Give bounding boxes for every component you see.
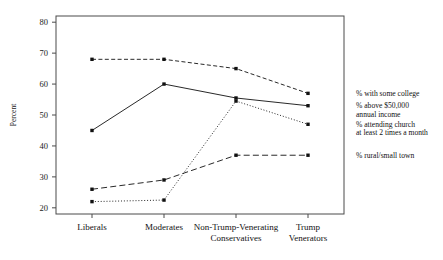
series-line-1 <box>92 84 308 130</box>
data-point-marker[interactable] <box>90 200 93 203</box>
x-axis-category-label: Non-Trump-Venerating <box>194 222 279 232</box>
legend-label-3: % rural/small town <box>356 151 414 160</box>
data-point-marker[interactable] <box>162 58 165 61</box>
x-axis-category-label: Liberals <box>77 222 107 232</box>
data-point-marker[interactable] <box>306 104 309 107</box>
y-axis-tick-label: 80 <box>40 17 49 27</box>
legend-label-1: annual income <box>356 110 401 119</box>
line-chart: 20304050607080PercentLiberalsModeratesNo… <box>0 0 443 260</box>
legend-label-2: at least 2 times a month <box>356 128 428 137</box>
y-axis-tick-label: 60 <box>40 79 49 89</box>
series-line-2 <box>92 101 308 202</box>
series-line-0 <box>92 59 308 93</box>
x-axis-category-label: Conservatives <box>211 233 262 243</box>
data-point-marker[interactable] <box>306 92 309 95</box>
data-point-marker[interactable] <box>306 154 309 157</box>
y-axis-tick-label: 70 <box>40 48 49 58</box>
chart-container: 20304050607080PercentLiberalsModeratesNo… <box>0 0 443 260</box>
data-point-marker[interactable] <box>234 154 237 157</box>
data-point-marker[interactable] <box>234 99 237 102</box>
y-axis-title: Percent <box>9 103 18 126</box>
x-axis-category-label: Trump <box>296 222 321 232</box>
data-point-marker[interactable] <box>162 178 165 181</box>
y-axis-tick-label: 30 <box>40 172 49 182</box>
data-point-marker[interactable] <box>234 96 237 99</box>
y-axis-tick-label: 40 <box>40 141 49 151</box>
data-point-marker[interactable] <box>162 82 165 85</box>
data-point-marker[interactable] <box>234 67 237 70</box>
y-axis-tick-label: 20 <box>40 203 49 213</box>
data-point-marker[interactable] <box>90 58 93 61</box>
data-point-marker[interactable] <box>90 188 93 191</box>
x-axis-category-label: Venerators <box>289 233 328 243</box>
series-line-3 <box>92 155 308 189</box>
data-point-marker[interactable] <box>306 123 309 126</box>
plot-frame <box>56 16 344 214</box>
data-point-marker[interactable] <box>162 198 165 201</box>
x-axis-category-label: Moderates <box>145 222 183 232</box>
data-point-marker[interactable] <box>90 129 93 132</box>
legend-label-0: % with some college <box>356 89 420 98</box>
y-axis-tick-label: 50 <box>40 110 49 120</box>
